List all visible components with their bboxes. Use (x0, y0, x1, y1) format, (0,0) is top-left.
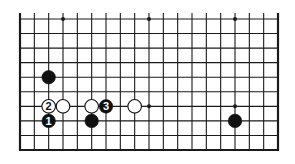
white-stone: 2 (42, 100, 56, 114)
stone-circle (85, 114, 99, 128)
black-stone: 3 (99, 100, 113, 114)
stone-circle (42, 70, 56, 84)
stones-layer: 231 (42, 70, 242, 127)
stone-circle (228, 114, 242, 128)
black-stone: 1 (42, 114, 56, 128)
stone-circle (56, 100, 70, 114)
go-board: 231 (0, 0, 295, 164)
board-grid (19, 13, 279, 150)
move-number-label: 3 (103, 100, 109, 112)
white-stone (56, 100, 70, 114)
star-point (233, 17, 237, 21)
star-point (147, 104, 151, 108)
move-number-label: 1 (46, 115, 52, 127)
stone-circle (128, 100, 142, 114)
black-stone (85, 114, 99, 128)
black-stone (42, 70, 56, 84)
move-number-label: 2 (46, 100, 52, 112)
white-stone (85, 100, 99, 114)
star-point (147, 17, 151, 21)
stone-circle (85, 100, 99, 114)
white-stone (128, 100, 142, 114)
star-point (233, 104, 237, 108)
star-point (61, 17, 65, 21)
black-stone (228, 114, 242, 128)
